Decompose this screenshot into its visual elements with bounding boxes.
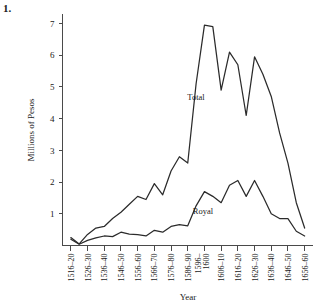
x-tick-label: 1566–70	[150, 254, 159, 282]
x-axis-ticks: 1516–201526–301536–401546–501556–601566–…	[67, 246, 310, 282]
figure-container: 1. 1234567 1516–201526–301536–401546–501…	[0, 0, 320, 307]
figure-number: 1.	[3, 2, 11, 14]
x-axis-title: Year	[180, 292, 197, 302]
x-tick-label: 1586–90	[184, 254, 193, 282]
y-tick-label: 2	[50, 177, 55, 187]
x-tick-label: 1576–80	[167, 254, 176, 282]
series-label-total: Total	[187, 92, 205, 102]
x-tick-label: 1556–60	[134, 254, 143, 282]
x-tick-label: 1536–40	[100, 254, 109, 282]
y-tick-label: 1	[50, 209, 55, 219]
y-tick-label: 4	[50, 114, 55, 124]
x-tick-label: 1516–20	[67, 254, 76, 282]
x-tick-label: 1526–30	[84, 254, 93, 282]
y-axis-ticks: 1234567	[50, 19, 63, 219]
y-tick-label: 5	[50, 82, 55, 92]
x-tick-label: 1606–10	[217, 254, 226, 282]
y-axis-title: Millions of Pesos	[26, 98, 36, 162]
x-tick-label: 1656–60	[301, 254, 310, 282]
y-tick-label: 6	[50, 50, 55, 60]
y-tick-label: 7	[50, 19, 55, 29]
series-line-royal	[71, 180, 305, 244]
x-tick-label: 1636–40	[267, 254, 276, 282]
x-tick-label: 1646–50	[284, 254, 293, 282]
series-lines	[71, 25, 305, 244]
y-tick-label: 3	[50, 146, 55, 156]
line-chart: 1234567 1516–201526–301536–401546–501556…	[0, 0, 320, 307]
x-tick-label: 1616–20	[234, 254, 243, 282]
x-tick-label: 1546–50	[117, 254, 126, 282]
x-tick-label: 1600	[202, 254, 211, 270]
series-label-royal: Royal	[193, 206, 214, 216]
axes	[63, 14, 314, 246]
x-tick-label: 1626–30	[251, 254, 260, 282]
